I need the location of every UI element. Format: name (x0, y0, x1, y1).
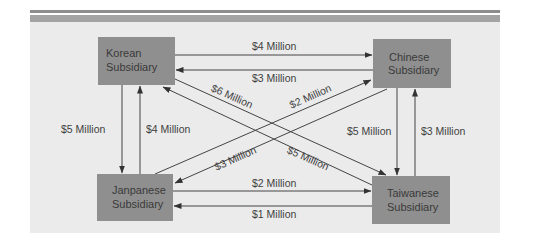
flow-label-taiwanese-to-japanese: $1 Million (252, 208, 296, 220)
flow-label-japanese-to-korean: $4 Million (146, 123, 190, 135)
node-label-line2: Subsidiary (112, 197, 163, 211)
node-label-line2: Subsidiary (388, 63, 439, 77)
node-japanese-subsidiary: Janpanese Subsidiary (97, 174, 173, 221)
node-chinese-subsidiary: Chinese Subsidiary (373, 39, 451, 88)
node-label-line2: Subsidiary (106, 60, 157, 74)
node-label-line2: Subsidiary (387, 200, 438, 214)
node-label-line1: Korean (106, 46, 141, 60)
flow-label-korean-to-japanese: $5 Million (61, 123, 105, 135)
node-label-line1: Taiwanese (387, 186, 439, 200)
flow-label-chinese-to-taiwanese: $5 Million (347, 125, 391, 137)
node-label-line1: Chinese (389, 50, 429, 64)
flow-label-taiwanese-to-chinese: $3 Million (421, 125, 465, 137)
node-taiwanese-subsidiary: Taiwanese Subsidiary (372, 176, 450, 224)
node-label-line1: Janpanese (112, 183, 166, 197)
flow-label-japanese-to-taiwanese: $2 Million (252, 177, 296, 189)
flow-label-chinese-to-korean: $3 Million (252, 72, 296, 84)
flow-label-korean-to-chinese: $4 Million (252, 40, 296, 52)
arrow-taiwanese-to-korean (163, 87, 372, 185)
node-korean-subsidiary: Korean Subsidiary (98, 37, 175, 85)
